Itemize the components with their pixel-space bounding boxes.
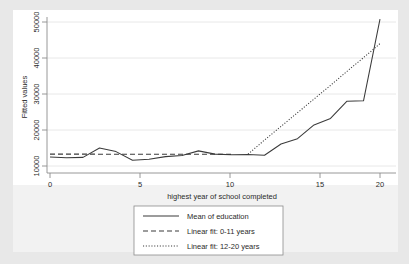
legend-label-linear-fit-12-20: Linear fit: 12-20 years — [187, 242, 260, 251]
legend: Mean of education Linear fit: 0-11 years… — [134, 206, 283, 255]
y-tick-label-10000: 10000 — [32, 156, 41, 177]
legend-label-mean-of-education: Mean of education — [187, 212, 249, 221]
fitted-values-line-chart: 50000 40000 30000 20000 10000 Fitted val… — [0, 0, 409, 264]
x-tick-label-5: 5 — [138, 180, 142, 189]
y-axis: 50000 40000 30000 20000 10000 Fitted val… — [20, 12, 47, 177]
x-axis-title: highest year of school completed — [167, 192, 277, 201]
legend-label-linear-fit-0-11: Linear fit: 0-11 years — [187, 227, 255, 236]
series-linear-fit-12-20 — [248, 44, 380, 155]
y-tick-label-30000: 30000 — [32, 84, 41, 105]
series-group — [50, 19, 380, 160]
gridlines — [47, 22, 396, 166]
y-tick-label-40000: 40000 — [32, 48, 41, 69]
y-tick-label-20000: 20000 — [32, 120, 41, 141]
series-mean-of-education — [50, 19, 380, 160]
y-tick-label-50000: 50000 — [32, 12, 41, 33]
x-tick-label-10: 10 — [226, 180, 234, 189]
chart-figure: 50000 40000 30000 20000 10000 Fitted val… — [0, 0, 409, 264]
x-tick-label-15: 15 — [316, 180, 324, 189]
x-tick-label-0: 0 — [48, 180, 52, 189]
x-tick-label-20: 20 — [376, 180, 384, 189]
y-axis-title: Fitted values — [20, 75, 29, 118]
x-axis: 0 5 10 15 20 highest year of school comp… — [47, 173, 396, 201]
